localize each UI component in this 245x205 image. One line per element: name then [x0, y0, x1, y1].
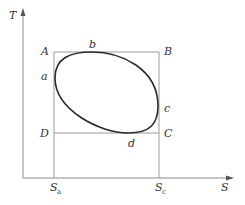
point-label-c: c — [164, 102, 170, 115]
cycle-curve — [55, 52, 158, 133]
x-axis-label: S — [221, 181, 229, 194]
point-label-b: b — [89, 38, 96, 51]
tick-label-sa: S a — [50, 181, 61, 196]
x-axis-arrow-icon — [226, 176, 234, 181]
t-s-diagram: T S A B C D a b c d S a S c — [0, 0, 245, 205]
tick-label-sc: S c — [155, 181, 166, 196]
y-axis-arrow-icon — [21, 8, 26, 16]
svg-text:a: a — [57, 188, 61, 196]
corner-label-d-upper: D — [39, 127, 49, 140]
point-label-d: d — [128, 137, 135, 150]
svg-text:c: c — [162, 188, 166, 196]
corner-label-b-upper: B — [163, 45, 172, 58]
corner-label-c-upper: C — [164, 127, 173, 140]
point-label-a: a — [41, 70, 48, 83]
y-axis: T — [9, 8, 26, 178]
y-axis-label: T — [9, 9, 18, 22]
corner-label-a-upper: A — [40, 45, 49, 58]
